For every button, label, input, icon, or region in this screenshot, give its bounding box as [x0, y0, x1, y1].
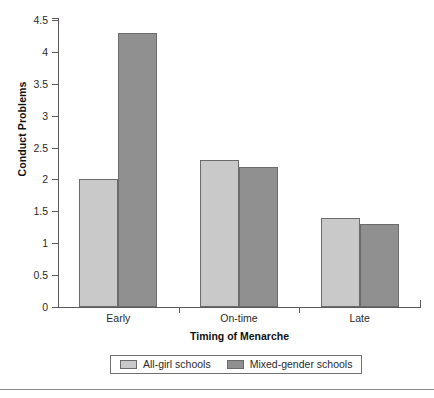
y-axis-tick-label: 0 — [8, 302, 48, 313]
y-axis-tick-label: 3 — [8, 111, 48, 122]
bar — [118, 33, 157, 307]
legend-label: All-girl schools — [143, 359, 211, 370]
y-axis-tick-label: 1.5 — [8, 206, 48, 217]
y-axis-tick-label: 0.5 — [8, 270, 48, 281]
x-axis-category-label: On-time — [179, 312, 299, 325]
legend-swatch-icon — [227, 360, 244, 369]
bar — [321, 218, 360, 307]
bottom-divider — [0, 389, 434, 390]
y-axis-tick-label: 2.5 — [8, 143, 48, 154]
y-axis-tick-label: 1 — [8, 238, 48, 249]
y-axis-tick — [52, 307, 59, 308]
y-axis-tick-label: 4 — [8, 47, 48, 58]
bar — [79, 179, 118, 307]
bar — [200, 160, 239, 307]
y-axis-tick-label: 2 — [8, 174, 48, 185]
x-axis-category-label: Early — [58, 312, 178, 325]
y-axis-tick-label: 4.5 — [8, 15, 48, 26]
legend-entry: All-girl schools — [120, 359, 211, 370]
bar-chart-figure: Conduct Problems 4.543.532.521.510.50 Ea… — [0, 0, 434, 398]
x-axis-title: Timing of Menarche — [58, 330, 421, 342]
legend-swatch-icon — [120, 360, 137, 369]
legend-entry: Mixed-gender schools — [227, 359, 353, 370]
plot-area — [58, 20, 420, 307]
y-axis-tick-label: 3.5 — [8, 79, 48, 90]
legend-label: Mixed-gender schools — [250, 359, 353, 370]
y-axis-title: Conduct Problems — [16, 49, 28, 209]
bar — [239, 167, 278, 307]
chart-legend: All-girl schoolsMixed-gender schools — [110, 355, 362, 374]
y-axis-top-tick — [52, 18, 59, 19]
x-axis-category-label: Late — [300, 312, 420, 325]
x-axis-line — [58, 307, 421, 308]
bar — [360, 224, 399, 307]
x-axis-end-tick — [420, 300, 421, 308]
